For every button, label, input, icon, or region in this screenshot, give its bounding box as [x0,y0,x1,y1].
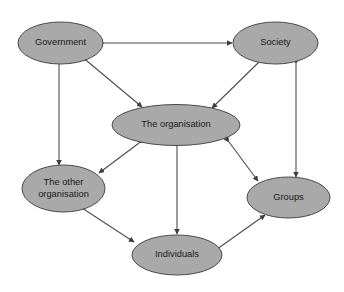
edge-the-organisation-other-organisation [99,143,139,173]
node-label-government: Government [35,37,87,47]
node-the-other-organisation[interactable]: The otherorganisation [22,165,105,212]
nodes-layer: GovernmentSocietyThe organisationThe oth… [18,22,330,275]
node-label-the-other-organisation: The other [44,177,84,187]
node-government[interactable]: Government [18,22,103,64]
node-individuals[interactable]: Individuals [132,235,222,275]
edge-the-organisation-groups [229,142,258,181]
edge-society-the-organisation [212,62,259,108]
diagram-canvas: GovernmentSocietyThe organisationThe oth… [0,0,344,292]
edge-individuals-groups [220,215,265,247]
relationship-diagram: GovernmentSocietyThe organisationThe oth… [0,0,344,292]
node-label-the-other-organisation: organisation [38,189,89,199]
node-label-individuals: Individuals [155,249,199,259]
edge-other-organisation-individuals [82,208,134,242]
node-groups[interactable]: Groups [247,177,330,218]
node-label-society: Society [260,37,291,47]
node-the-organisation[interactable]: The organisation [112,105,240,146]
node-label-groups: Groups [273,192,304,202]
edge-government-the-organisation [87,61,142,107]
node-society[interactable]: Society [233,22,318,64]
node-label-the-organisation: The organisation [141,119,210,129]
